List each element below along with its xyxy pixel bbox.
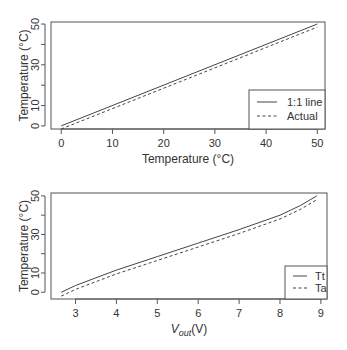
chart-figure: 010305001020304050Temperature (°C)Temper… [0,0,347,350]
bottom-panel: 01030503456789Temperature (°C)Vout(V)TtT… [17,190,328,338]
x-tick-label: 40 [260,137,272,149]
x-tick-label: 7 [236,307,242,319]
x-tick-label: 30 [209,137,221,149]
x-tick-label: 8 [277,307,283,319]
top-panel: 010305001020304050Temperature (°C)Temper… [17,18,325,166]
y-axis: 0103050 [29,18,45,129]
legend-label: 1:1 line [287,96,322,108]
x-tick-label: 9 [318,307,324,319]
series-ta [61,200,317,296]
x-axis-label: Vout(V) [171,322,208,338]
x-axis-label: Temperature (°C) [142,152,234,166]
legend-label: Tt [315,270,325,282]
x-tick-label: 5 [154,307,160,319]
y-tick-label: 50 [29,18,41,30]
legend-label: Ta [315,282,328,294]
x-axis: 01020304050 [58,129,323,149]
series-tt [61,196,317,292]
x-tick-label: 0 [58,137,64,149]
x-tick-label: 50 [311,137,323,149]
x-tick-label: 4 [113,307,119,319]
x-tick-label: 3 [72,307,78,319]
x-tick-label: 20 [158,137,170,149]
legend: 1:1 lineActual [249,90,325,129]
y-axis: 0103050 [29,190,45,296]
y-axis-label: Temperature (°C) [17,29,31,121]
legend: TtTa [285,266,328,299]
y-tick-label: 0 [29,123,41,129]
x-tick-label: 10 [106,137,118,149]
legend-label: Actual [287,110,318,122]
y-axis-label: Temperature (°C) [17,200,31,292]
x-tick-label: 6 [195,307,201,319]
x-axis: 3456789 [72,299,323,319]
